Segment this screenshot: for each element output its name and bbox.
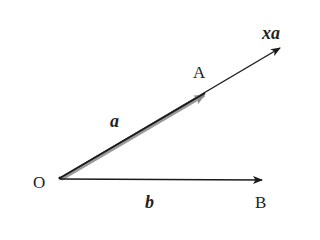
label-origin: O	[33, 174, 45, 191]
origin-point	[58, 176, 61, 179]
label-vector-b: b	[145, 193, 154, 211]
label-vector-xa: xa	[262, 24, 280, 42]
vector-a-line	[60, 93, 205, 178]
label-point-b: B	[255, 194, 266, 211]
label-point-a: A	[193, 64, 205, 81]
vector-b-line	[60, 179, 262, 180]
vector-a-shadow	[61, 95, 204, 179]
label-vector-a: a	[110, 112, 119, 130]
